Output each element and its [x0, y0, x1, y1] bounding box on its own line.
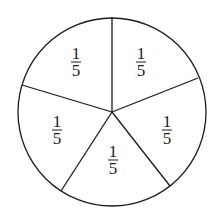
sector-fraction-label: 15 [52, 112, 62, 148]
sector-fraction-label: 15 [162, 112, 172, 148]
fraction-denominator: 5 [53, 129, 62, 148]
sector-fraction-label: 15 [136, 44, 146, 80]
fraction-denominator: 5 [163, 129, 172, 148]
fraction-denominator: 5 [109, 159, 118, 178]
fraction-circle-diagram: 1515151515 [0, 0, 212, 222]
fraction-denominator: 5 [72, 61, 81, 80]
fraction-denominator: 5 [137, 61, 146, 80]
sector-fraction-label: 15 [71, 44, 81, 80]
sector-fraction-label: 15 [108, 142, 118, 178]
